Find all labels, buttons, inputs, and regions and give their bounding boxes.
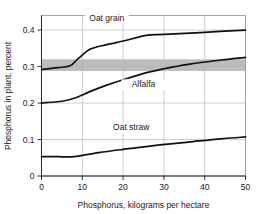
series-label-oat-straw: Oat straw bbox=[113, 122, 150, 132]
y-tick-label: 0.1 bbox=[23, 135, 35, 145]
chart-canvas: 01020304050 00.10.20.30.4 Oat grainAlfal… bbox=[0, 0, 259, 214]
y-tick-label: 0 bbox=[30, 171, 35, 181]
x-tick-label: 20 bbox=[118, 182, 128, 192]
x-tick-label: 10 bbox=[78, 182, 88, 192]
x-tick-label: 30 bbox=[159, 182, 169, 192]
series-label-alfalfa: Alfalfa bbox=[132, 79, 156, 89]
y-tick-label: 0.3 bbox=[23, 62, 35, 72]
y-tick-label: 0.2 bbox=[23, 98, 35, 108]
x-tick-label: 0 bbox=[39, 182, 44, 192]
series-label-oat-grain: Oat grain bbox=[89, 13, 124, 23]
phosphorus-line-chart: 01020304050 00.10.20.30.4 Oat grainAlfal… bbox=[0, 0, 259, 214]
y-tick-label: 0.4 bbox=[23, 25, 35, 35]
x-tick-label: 50 bbox=[241, 182, 251, 192]
y-axis-title: Phosphorus in plant, percent bbox=[3, 41, 13, 150]
x-tick-label: 40 bbox=[200, 182, 210, 192]
x-axis-title: Phosphorus, kilograms per hectare bbox=[78, 200, 210, 210]
